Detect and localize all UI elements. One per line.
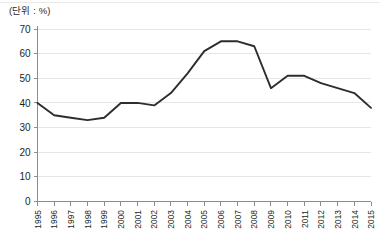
x-axis-tick-label: 2005 [199,210,209,229]
y-axis-tick-label: 70 [19,24,31,35]
x-axis-tick-label: 1999 [99,210,109,229]
x-axis-tick-label: 1995 [33,210,43,229]
y-axis-tick-label: 40 [19,98,31,109]
y-axis-tick-label: 60 [19,48,31,59]
x-axis-tick-label: 2013 [333,210,343,229]
x-axis-tick-label: 2001 [133,210,143,229]
y-axis-tick-label: 50 [19,73,31,84]
x-axis-tick-label: 1997 [66,210,76,229]
y-axis-tick-label: 0 [25,196,31,207]
x-axis-tick-label: 2008 [249,210,259,229]
x-axis-tick-label: 2000 [116,210,126,229]
y-axis-ticks: 010203040506070 [19,24,37,208]
line-chart: (단위 : %) 010203040506070 199519961997199… [0,0,380,242]
x-axis-tick-label: 2009 [266,210,276,229]
x-axis-tick-label: 1998 [83,210,93,229]
x-axis-tick-label: 2003 [166,210,176,229]
x-axis-tick-label: 2002 [149,210,159,229]
chart-plot-area: 010203040506070 199519961997199819992000… [0,0,380,242]
x-axis-tick-label: 2004 [183,210,193,229]
x-axis-tick-label: 2006 [216,210,226,229]
x-axis-tick-label: 2012 [316,210,326,229]
x-axis-tick-label: 2011 [300,210,310,228]
y-axis-tick-label: 30 [19,122,31,133]
x-axis-tick-label: 2015 [366,210,376,229]
y-axis-tick-label: 20 [19,147,31,158]
x-axis-tick-label: 2007 [233,210,243,229]
y-axis-tick-label: 10 [19,171,31,182]
x-axis-ticks: 1995199619971998199920002001200220032004… [33,202,377,229]
x-axis-tick-label: 1996 [49,210,59,229]
x-axis-tick-label: 2010 [283,210,293,229]
x-axis-tick-label: 2014 [350,210,360,229]
